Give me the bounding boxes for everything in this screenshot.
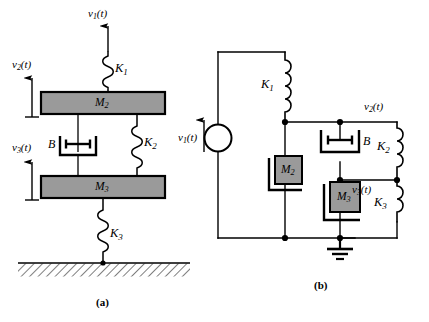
label-v3-mech: v3(t) xyxy=(12,142,31,155)
node-dot-v2-damper xyxy=(337,119,343,125)
ground-symbol-circuit xyxy=(327,238,353,259)
inductor-k1-circuit xyxy=(285,52,291,122)
panel-a-mechanical-diagram xyxy=(18,26,190,277)
velocity-arrow-v2-mech xyxy=(25,78,39,117)
label-k3-circuit: K3 xyxy=(374,196,387,211)
label-k2-mech: K2 xyxy=(144,136,157,151)
label-k1-circuit: K1 xyxy=(261,78,274,93)
caption-panel-b: (b) xyxy=(314,279,327,291)
label-m3-mech: M3 xyxy=(95,181,109,195)
label-b-circuit: B xyxy=(363,135,370,147)
current-source-v1-circuit xyxy=(204,120,232,152)
node-dot-v3 xyxy=(337,177,343,183)
spring-k2-mech xyxy=(132,114,143,176)
label-v1-mech: v1(t) xyxy=(88,8,107,21)
label-k3-mech: K3 xyxy=(110,227,123,242)
inductor-k3-circuit xyxy=(397,180,403,222)
label-m3-circuit: M3 xyxy=(337,191,351,205)
figure-container: v1(t) K1 v2(t) M2 B K2 v3(t) M3 K3 (a) K… xyxy=(0,0,429,322)
label-v1-circuit: v1(t) xyxy=(178,132,197,145)
label-v3-circuit: v3(t) xyxy=(352,184,371,197)
ground-hatching-mech xyxy=(18,263,190,277)
node-dot-bottom-m2 xyxy=(282,235,288,241)
spring-k3-mech xyxy=(98,198,109,263)
spring-k1-mech xyxy=(103,52,114,92)
inductor-k2-circuit xyxy=(397,122,403,180)
label-m2-circuit: M2 xyxy=(281,164,295,178)
figure-svg xyxy=(0,0,429,322)
node-dot-v2-k1 xyxy=(282,119,288,125)
label-v2-circuit: v2(t) xyxy=(364,101,383,114)
label-k1-mech: K1 xyxy=(115,62,128,77)
label-v2-mech: v2(t) xyxy=(12,59,31,72)
label-m2-mech: M2 xyxy=(95,97,109,111)
damper-b-mech xyxy=(60,114,96,176)
caption-panel-a: (a) xyxy=(96,296,109,308)
label-b-mech: B xyxy=(48,138,55,150)
velocity-arrow-v3-mech xyxy=(25,162,39,200)
label-k2-circuit: K2 xyxy=(377,140,390,155)
node-dot-v3-right xyxy=(394,177,400,183)
panel-b-circuit-diagram xyxy=(204,52,403,259)
